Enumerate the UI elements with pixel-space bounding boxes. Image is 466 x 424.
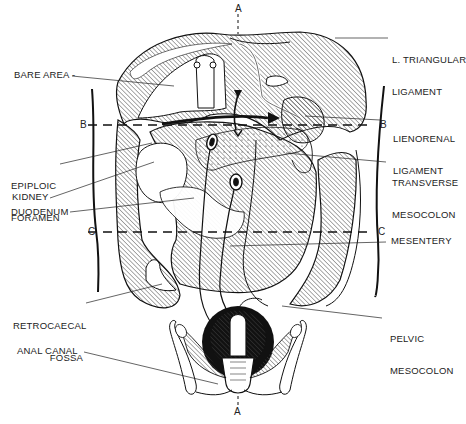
- label-transverse-mesocolon-line2: MESOCOLON: [392, 210, 458, 221]
- label-duodenum: DUODENUM: [11, 207, 69, 218]
- label-l-triangular-ligament-line2: LIGAMENT: [392, 87, 466, 98]
- pelvis: [170, 298, 307, 395]
- label-l-triangular-ligament-line1: L. TRIANGULAR: [392, 55, 466, 66]
- section-marker-c-right: C: [378, 226, 385, 237]
- section-marker-c-left: C: [88, 226, 95, 237]
- section-marker-a-top: A: [235, 3, 242, 14]
- liver-peritoneum: [116, 32, 366, 140]
- label-transverse-mesocolon: TRANSVERSE MESOCOLON: [392, 157, 458, 231]
- label-retrocaecal-fossa: RETROCAECAL FOSSA: [13, 300, 83, 374]
- label-pelvic-mesocolon: PELVIC MESOCOLON: [390, 313, 454, 387]
- label-pelvic-mesocolon-line1: PELVIC: [390, 334, 454, 345]
- label-retrocaecal-fossa-line1: RETROCAECAL: [13, 321, 83, 332]
- section-marker-a-bottom: A: [234, 406, 241, 417]
- label-kidney: KIDNEY: [12, 192, 49, 203]
- section-marker-b-left: B: [80, 119, 87, 130]
- label-mesentery: MESENTERY: [391, 236, 452, 247]
- label-lienorenal-ligament-line1: LIENORENAL: [393, 134, 455, 145]
- label-transverse-mesocolon-line1: TRANSVERSE: [392, 178, 458, 189]
- label-bare-area: BARE AREA -: [14, 70, 75, 81]
- label-anal-canal: ANAL CANAL: [17, 346, 78, 357]
- section-marker-b-right: B: [380, 119, 387, 130]
- mesentery-region: [136, 97, 324, 293]
- label-epiploic-foramen-line1: EPIPLOIC: [11, 181, 60, 192]
- label-pelvic-mesocolon-line2: MESOCOLON: [390, 366, 454, 377]
- label-l-triangular-ligament: L. TRIANGULAR LIGAMENT: [392, 34, 466, 108]
